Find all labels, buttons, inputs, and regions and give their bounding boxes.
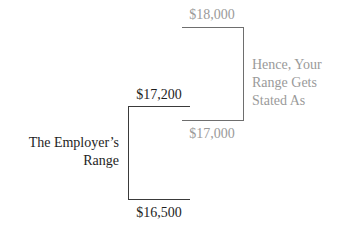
employer-range-top-line (128, 106, 190, 107)
employer-range-bottom-line (128, 199, 190, 200)
your-range-caption-line: Hence, Your (252, 56, 322, 74)
employer-range-caption-line: Range (29, 152, 119, 170)
your-range-caption-line: Range Gets (252, 74, 322, 92)
employer-range-bottom-value: $16,500 (136, 204, 182, 222)
employer-range-vertical-line (128, 106, 129, 200)
your-range-bottom-value: $17,000 (189, 125, 235, 143)
employer-range-caption: The Employer’s Range (29, 134, 119, 170)
employer-range-top-value: $17,200 (136, 86, 182, 104)
your-range-caption: Hence, Your Range Gets Stated As (252, 56, 322, 110)
your-range-vertical-line (243, 27, 244, 121)
employer-range-caption-line: The Employer’s (29, 134, 119, 152)
your-range-top-value: $18,000 (189, 6, 235, 24)
your-range-caption-line: Stated As (252, 92, 322, 110)
your-range-bottom-line (182, 120, 244, 121)
your-range-top-line (182, 27, 244, 28)
